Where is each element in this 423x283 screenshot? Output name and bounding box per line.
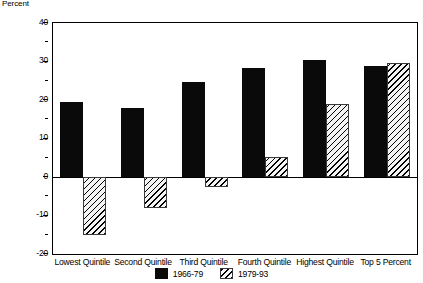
y-axis-tick-minor <box>45 234 48 235</box>
bar <box>364 66 387 177</box>
legend-entry: 1966-79 <box>155 268 203 279</box>
y-axis-tick-label: 0 <box>14 172 48 181</box>
x-axis-category-label: Third Quintile <box>173 257 234 268</box>
bar <box>60 102 83 177</box>
y-axis-tick-minor <box>45 41 48 42</box>
y-axis-tick-label: -20 <box>14 249 48 258</box>
chart-legend: 1966-791979-93 <box>0 268 423 279</box>
legend-label: 1979-93 <box>238 269 268 279</box>
x-axis-category-label: Highest Quintile <box>295 257 356 268</box>
y-axis-tick-label: 30 <box>14 56 48 65</box>
bar <box>205 177 228 187</box>
y-axis-labels: -20-10010203040 <box>8 22 48 255</box>
bar-chart: Percent -20-10010203040 Lowest QuintileS… <box>0 0 423 283</box>
y-axis-tick-minor <box>45 118 48 119</box>
bar-group <box>182 23 228 254</box>
bar <box>326 104 349 177</box>
zero-baseline <box>53 177 417 178</box>
bar <box>121 108 144 177</box>
legend-label: 1966-79 <box>173 269 203 279</box>
y-axis-tick-label: 20 <box>14 95 48 104</box>
legend-swatch <box>220 268 233 279</box>
x-axis-category-label: Top 5 Percent <box>355 257 416 268</box>
x-axis-category-label: Second Quintile <box>113 257 174 268</box>
bar <box>83 177 106 235</box>
bar <box>303 60 326 177</box>
x-axis-category-label: Fourth Quintile <box>234 257 295 268</box>
bar <box>242 68 265 177</box>
bar <box>265 157 288 177</box>
bar-group <box>121 23 167 254</box>
bar-group <box>303 23 349 254</box>
y-axis-tick-label: 10 <box>14 133 48 142</box>
y-axis-tick-minor <box>45 157 48 158</box>
y-axis-tick-minor <box>45 195 48 196</box>
y-axis-tick-minor <box>45 80 48 81</box>
legend-entry: 1979-93 <box>220 268 268 279</box>
legend-swatch <box>155 268 168 279</box>
bar-group <box>60 23 106 254</box>
plot-area <box>52 22 418 255</box>
y-axis-tick-label: 40 <box>14 18 48 27</box>
x-axis-category-label: Lowest Quintile <box>52 257 113 268</box>
bar <box>144 177 167 208</box>
y-axis-unit-label: Percent <box>2 0 29 9</box>
bar <box>182 82 205 177</box>
bar-group <box>242 23 288 254</box>
y-axis-tick-label: -10 <box>14 210 48 219</box>
bar <box>387 63 410 177</box>
bar-group <box>364 23 410 254</box>
